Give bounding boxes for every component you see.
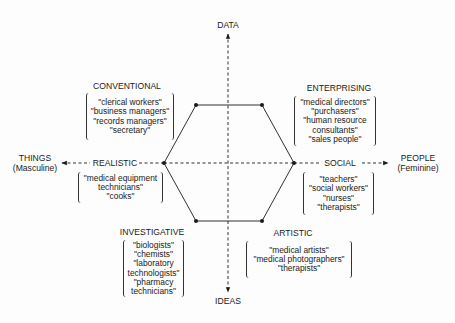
type-title-realistic: REALISTIC <box>93 159 137 168</box>
hexagon-diagram: DATA IDEAS THINGS (Masculine) PEOPLE (Fe… <box>0 0 455 323</box>
vertex-realistic <box>162 161 166 165</box>
axis-label-things: THINGS (Masculine) <box>13 154 57 173</box>
vertex-enterprising <box>260 103 264 107</box>
axis-things-sublabel: (Masculine) <box>13 164 57 174</box>
type-title-artistic: ARTISTIC <box>274 229 313 238</box>
group-investigative: "biologists" "chemists" "laboratory tech… <box>123 240 184 297</box>
example-item: "therapists" <box>278 264 320 273</box>
example-item: technicians" <box>131 287 176 296</box>
axis-data-text: DATA <box>217 20 239 30</box>
vertex-investigative <box>194 219 198 223</box>
example-item: "secretary" <box>110 126 150 135</box>
axis-label-people: PEOPLE (Feminine) <box>397 154 438 173</box>
axis-people-sublabel: (Feminine) <box>397 164 438 174</box>
group-artistic: "medical artists" "medical photographers… <box>246 241 352 278</box>
example-item: "therapists" <box>317 203 359 212</box>
group-conventional: "clerical workers" "business managers" "… <box>86 93 174 140</box>
example-item: "sales people" <box>309 135 362 144</box>
vertex-social <box>292 161 296 165</box>
type-title-conventional: CONVENTIONAL <box>93 82 161 91</box>
group-social: "teachers" "social workers" "nurses" "th… <box>303 172 374 215</box>
axis-label-data: DATA <box>217 21 239 31</box>
vertex-artistic <box>260 219 264 223</box>
type-title-enterprising: ENTERPRISING <box>307 84 371 93</box>
group-enterprising: "medical directors" "purchasers" "human … <box>294 96 376 146</box>
type-title-social: SOCIAL <box>324 159 356 168</box>
example-item: "cooks" <box>107 192 135 201</box>
diagram-lines <box>0 0 455 323</box>
axis-ideas-text: IDEAS <box>215 296 241 306</box>
group-realistic: "medical equipment technicians" "cooks" <box>78 172 163 203</box>
type-title-investigative: INVESTIGATIVE <box>120 228 184 237</box>
vertex-conventional <box>194 103 198 107</box>
axis-label-ideas: IDEAS <box>215 297 241 307</box>
